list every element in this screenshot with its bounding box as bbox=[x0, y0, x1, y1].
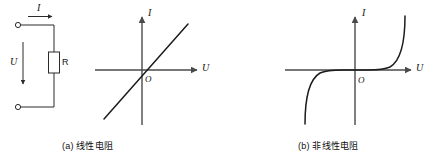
plot-linear-resistor: I U O bbox=[95, 7, 210, 125]
plot-nonlinear-resistor: I U O bbox=[285, 7, 424, 125]
plot-a-x-axis-label: U bbox=[202, 62, 210, 73]
plot-a-line bbox=[104, 24, 188, 119]
plot-a-y-axis-label: I bbox=[147, 7, 152, 18]
caption-panel-b: (b) 非线性电阻 bbox=[298, 139, 358, 152]
circuit-voltage-label: U bbox=[10, 56, 18, 67]
plot-b-origin-label: O bbox=[358, 75, 365, 85]
plot-a-origin-label: O bbox=[145, 74, 152, 84]
terminal-top bbox=[15, 22, 20, 27]
circuit-resistor-label: R bbox=[62, 57, 69, 67]
plot-b-x-axis-label: U bbox=[416, 62, 424, 73]
figure-graphics: I U R I U O I U O bbox=[0, 0, 430, 160]
plot-b-y-axis-label: I bbox=[361, 7, 366, 18]
caption-panel-a: (a) 线性电阻 bbox=[62, 139, 113, 152]
circuit-diagram: I U R bbox=[10, 2, 69, 110]
terminal-bottom bbox=[15, 104, 20, 109]
figure-container: I U R I U O I U O (a) bbox=[0, 0, 430, 160]
circuit-current-label: I bbox=[36, 2, 41, 13]
resistor-symbol bbox=[49, 52, 60, 73]
